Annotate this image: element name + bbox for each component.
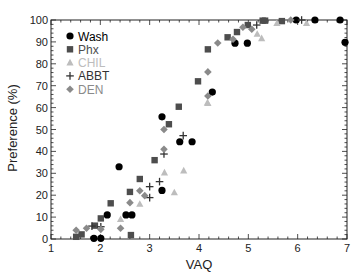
y-tick-label: 30: [36, 167, 48, 179]
legend: WashPhxCHILABBTDEN: [66, 30, 110, 97]
y-tick-label: 40: [36, 145, 48, 157]
circle-marker: [176, 138, 183, 145]
diamond-marker: [136, 187, 144, 195]
scatter-chart: 1234567 0102030405060708090100 VAQ Prefe…: [0, 0, 364, 277]
y-tick-label: 0: [42, 233, 48, 245]
circle-marker: [158, 113, 165, 120]
circle-marker: [311, 16, 318, 23]
diamond-marker: [204, 68, 212, 76]
legend-label: Phx: [78, 43, 99, 57]
series-den: [72, 16, 294, 234]
circle-marker: [158, 187, 165, 194]
diamond-marker: [287, 16, 295, 24]
square-icon: [67, 46, 73, 52]
y-tick-label: 100: [30, 14, 48, 26]
square-marker: [234, 29, 240, 35]
x-tick-label: 4: [196, 242, 202, 254]
y-tick-label: 80: [36, 58, 48, 70]
square-marker: [127, 189, 133, 195]
legend-label: ABBT: [78, 69, 110, 83]
y-tick-label: 20: [36, 189, 48, 201]
circle-marker: [97, 235, 104, 242]
legend-item-wash: Wash: [66, 30, 108, 44]
data-points: [72, 16, 348, 242]
circle-marker: [128, 211, 135, 218]
series-phx: [73, 17, 285, 240]
square-marker: [78, 231, 84, 237]
diamond-marker: [141, 192, 149, 200]
y-tick-label: 70: [36, 80, 48, 92]
y-axis-title: Preference (%): [5, 84, 20, 171]
legend-item-den: DEN: [66, 83, 103, 97]
square-marker: [205, 46, 211, 52]
series-wash: [90, 16, 348, 242]
triangle-marker: [254, 30, 261, 37]
square-marker: [195, 78, 201, 84]
triangle-icon: [66, 59, 73, 66]
triangle-marker: [161, 169, 168, 176]
circle-marker: [336, 16, 343, 23]
y-tick-labels: 0102030405060708090100: [30, 14, 48, 245]
y-tick-label: 90: [36, 36, 48, 48]
x-axis-title: VAQ: [186, 257, 213, 272]
square-marker: [107, 200, 113, 206]
legend-label: DEN: [78, 83, 103, 97]
square-marker: [166, 121, 172, 127]
square-marker: [98, 215, 104, 221]
plus-marker: [146, 183, 154, 191]
circle-marker: [90, 235, 97, 242]
circle-marker: [244, 40, 251, 47]
circle-marker: [104, 211, 111, 218]
diamond-marker: [160, 145, 168, 153]
square-marker: [279, 18, 285, 24]
circle-icon: [66, 32, 73, 39]
series-chil: [117, 19, 310, 222]
legend-item-abbt: ABBT: [66, 69, 110, 83]
y-tick-label: 60: [36, 102, 48, 114]
triangle-marker: [136, 200, 143, 207]
series-abbt: [88, 16, 305, 230]
legend-item-phx: Phx: [67, 43, 99, 57]
x-tick-label: 2: [97, 242, 103, 254]
x-tick-label: 6: [295, 242, 301, 254]
x-tick-label: 1: [48, 242, 54, 254]
circle-marker: [115, 163, 122, 170]
square-marker: [137, 176, 143, 182]
square-marker: [262, 17, 268, 23]
diamond-marker: [214, 39, 222, 47]
diamond-marker: [126, 199, 134, 207]
diamond-icon: [66, 85, 74, 93]
x-tick-labels: 1234567: [48, 242, 350, 254]
plus-icon: [66, 72, 74, 80]
y-tick-label: 10: [36, 211, 48, 223]
square-marker: [151, 157, 157, 163]
legend-label: CHIL: [78, 56, 106, 70]
triangle-marker: [180, 167, 187, 174]
triangle-marker: [171, 189, 178, 196]
legend-label: Wash: [78, 30, 108, 44]
x-tick-label: 3: [147, 242, 153, 254]
circle-marker: [188, 138, 195, 145]
plus-marker: [298, 16, 306, 24]
square-marker: [176, 104, 182, 110]
x-tick-label: 7: [344, 242, 350, 254]
circle-marker: [341, 39, 348, 46]
plus-marker: [156, 178, 164, 186]
x-tick-label: 5: [245, 242, 251, 254]
legend-item-chil: CHIL: [66, 56, 105, 70]
diamond-marker: [117, 224, 125, 232]
y-tick-label: 50: [36, 124, 48, 136]
square-marker: [128, 232, 134, 238]
